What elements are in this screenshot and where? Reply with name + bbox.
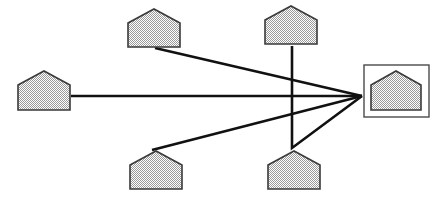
house-top-right-icon[interactable] (265, 6, 317, 44)
link-bottom-left-to-hub[interactable] (152, 96, 362, 150)
diagram-canvas: Star network of houses converging on a h… (0, 0, 443, 197)
house-bottom-right-icon[interactable] (268, 151, 320, 189)
house-hub-icon[interactable] (371, 71, 421, 110)
link-top-left-to-hub[interactable] (155, 48, 362, 96)
diagram-svg (0, 0, 443, 197)
house-left-icon[interactable] (18, 71, 70, 110)
house-hub-group[interactable] (364, 65, 429, 117)
house-bottom-left-icon[interactable] (130, 151, 182, 189)
link-layer (71, 46, 362, 150)
house-top-left-icon[interactable] (128, 9, 180, 47)
node-layer (18, 6, 429, 189)
